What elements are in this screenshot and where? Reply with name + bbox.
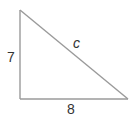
hypotenuse-label: c bbox=[73, 35, 80, 51]
vertical-leg-label: 7 bbox=[7, 49, 15, 65]
right-triangle-diagram: 7 c 8 bbox=[0, 0, 137, 118]
hypotenuse bbox=[20, 10, 128, 99]
horizontal-leg-label: 8 bbox=[67, 101, 75, 117]
